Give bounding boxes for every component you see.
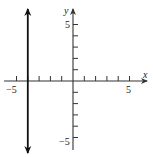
y-axis-label: y [63, 5, 69, 16]
x-tick-label-5: 5 [126, 84, 131, 95]
x-axis-label: x [142, 69, 148, 80]
x-tick-label-neg5: −5 [6, 84, 17, 95]
chart-svg: x y −5 5 5 −5 [0, 0, 153, 157]
coordinate-plane: x y −5 5 5 −5 [0, 0, 153, 157]
y-tick-label-5: 5 [65, 19, 70, 30]
y-tick-label-neg5: −5 [59, 136, 70, 147]
